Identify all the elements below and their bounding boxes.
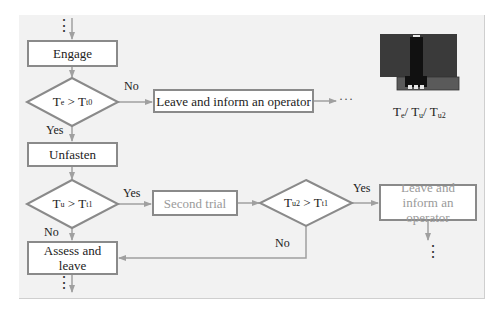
continuation-dots-right-box: ⋮ [425,246,431,258]
d3-rhs-sub: t1 [322,199,328,208]
d1-no-label: No [124,79,139,94]
unfasten-box: Unfasten [27,142,118,167]
d2-op: > [64,196,78,212]
d1-yes-label: Yes [46,123,63,138]
d1-rhs: T [78,94,86,110]
d3-no-label: No [275,236,290,251]
d1-rhs-sub: t0 [86,98,92,107]
d3-op: > [300,195,314,211]
d3-rhs: T [314,195,322,211]
assess-leave-box: Assess and leave [27,241,118,275]
d2-lhs: T [53,196,61,212]
decision-3-label: Tu2 > Tt1 [260,193,352,213]
bolt-illustration [380,34,459,101]
d2-yes-label: Yes [123,186,140,201]
d1-op: > [64,94,78,110]
d2-rhs-sub: t1 [86,200,92,209]
leave-inform-box-1: Leave and inform an operator [153,89,314,113]
caption-te: T [393,104,401,119]
caption-tu2-sub: u2 [438,111,446,120]
caption-tu2: / T [423,104,438,119]
d3-yes-label: Yes [353,181,370,196]
d3-lhs-sub: u2 [292,199,300,208]
second-trial-box: Second trial [152,190,238,216]
decision-1-label: Te > Tt0 [27,92,118,112]
d1-lhs: T [53,94,61,110]
d3-lhs: T [284,195,292,211]
d2-no-label: No [44,225,59,240]
decision-2-label: Tu > Tt1 [27,194,118,214]
illustration-caption: Te/ Tu/ Tu2 [393,104,446,120]
leave-inform-box-2: Leave and inform an operator [379,184,477,221]
caption-tu: / T [405,104,420,119]
continuation-dots-bottom: ⋮ [56,277,62,289]
continuation-dots-top: ⋮ [56,20,62,32]
continuation-dots-right: ··· [339,92,354,107]
engage-box: Engage [27,40,118,67]
d2-rhs: T [78,196,86,212]
